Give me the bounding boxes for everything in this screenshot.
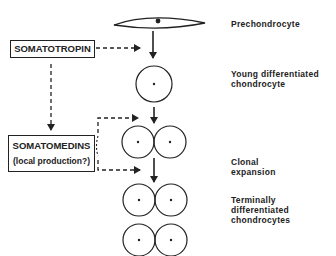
somatomedins-box: SOMATOMEDINS (local production?) bbox=[8, 135, 95, 172]
label-line: chondrocyte bbox=[231, 79, 285, 89]
stage-label-terminal: Terminally differentiated chondrocytes bbox=[231, 195, 290, 225]
young-chondrocyte-cell-icon bbox=[136, 66, 172, 102]
diagram-canvas: SOMATOTROPIN SOMATOMEDINS (local product… bbox=[0, 0, 336, 256]
dashed-arrow-somatomedins-to-clonal bbox=[98, 118, 138, 133]
label-line: expansion bbox=[231, 167, 276, 177]
terminal-cell-cluster-icon bbox=[123, 184, 187, 256]
label-line: chondrocytes bbox=[231, 215, 290, 225]
prechondrocyte-cell-icon bbox=[114, 18, 205, 28]
somatotropin-label: SOMATOTROPIN bbox=[11, 41, 94, 56]
dashed-bracket bbox=[97, 136, 99, 156]
somatomedins-sublabel: (local production?) bbox=[9, 154, 94, 168]
label-line: Young differentiated bbox=[231, 69, 319, 79]
clonal-pair-cells-icon bbox=[122, 126, 186, 158]
label-line: Terminally bbox=[231, 195, 276, 205]
stage-label-prechondrocyte: Prechondrocyte bbox=[231, 19, 300, 29]
label-line: Clonal bbox=[231, 157, 259, 167]
somatomedins-label: SOMATOMEDINS bbox=[9, 138, 94, 154]
somatotropin-box: SOMATOTROPIN bbox=[10, 40, 95, 58]
label-line: Prechondrocyte bbox=[231, 19, 300, 29]
stage-label-young: Young differentiated chondrocyte bbox=[231, 69, 319, 89]
dashed-arrow-somatomedins-to-terminal bbox=[98, 160, 140, 170]
stage-label-clonal: Clonal expansion bbox=[231, 157, 276, 177]
label-line: differentiated bbox=[231, 205, 289, 215]
